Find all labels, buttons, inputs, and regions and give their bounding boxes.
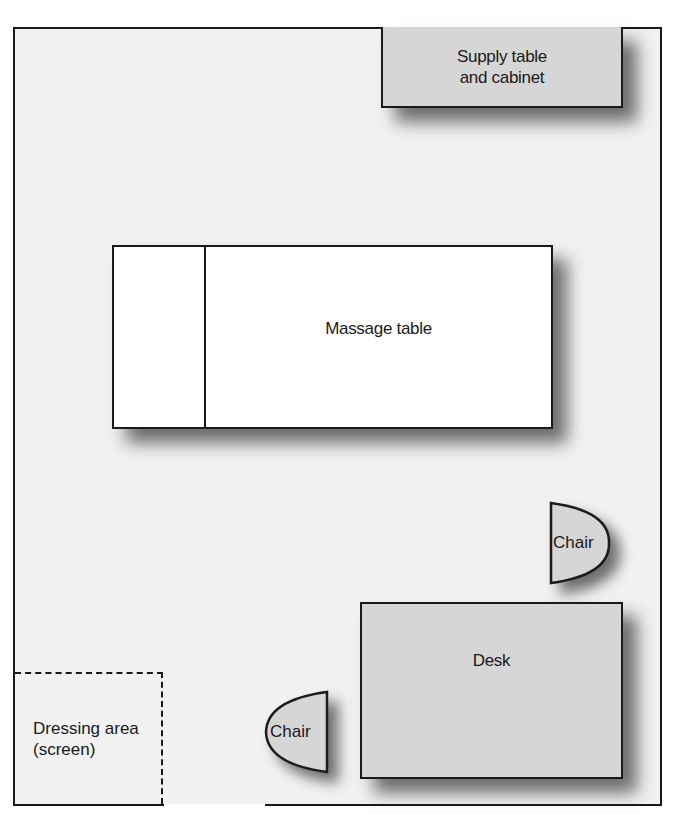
- massage-table-label: Massage table: [325, 318, 432, 339]
- desk: Desk: [360, 602, 623, 779]
- desk-label: Desk: [473, 650, 511, 671]
- floor-plan: Supply table and cabinet Massage table C…: [0, 0, 678, 814]
- chair-left-label: Chair: [270, 722, 311, 742]
- dressing-area-label-line2: (screen): [33, 739, 139, 760]
- supply-table-label-line1: Supply table: [457, 46, 547, 67]
- massage-table-headrest: [114, 247, 206, 427]
- dressing-area-label-line1: Dressing area: [33, 718, 139, 739]
- supply-table-and-cabinet: Supply table and cabinet: [381, 27, 623, 108]
- massage-table: Massage table: [112, 245, 553, 429]
- wall-right: [660, 27, 662, 806]
- dressing-area-screen: Dressing area (screen): [15, 672, 163, 804]
- wall-bottom-right: [265, 804, 662, 806]
- wall-bottom-left: [13, 804, 164, 806]
- chair-right-label: Chair: [553, 533, 594, 553]
- supply-table-label-line2: and cabinet: [460, 67, 545, 88]
